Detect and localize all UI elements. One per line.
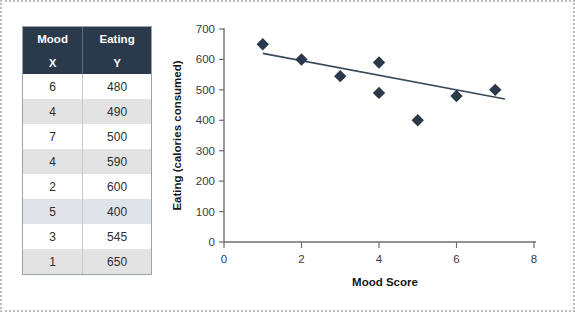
- x-tick-label: 2: [298, 253, 304, 265]
- data-point-marker: [450, 90, 462, 102]
- x-tick-label: 6: [453, 253, 459, 265]
- column-header-mood: Mood: [23, 27, 83, 51]
- cell-eating: 545: [83, 224, 151, 249]
- y-axis-title: Eating (calories consumed): [171, 60, 183, 210]
- x-tick-label: 8: [531, 253, 537, 265]
- cell-eating: 400: [83, 199, 151, 224]
- mood-eating-data-table: Mood Eating X Y 648044907500459026005400…: [23, 27, 151, 274]
- column-subheader-x: X: [23, 51, 83, 74]
- table-row: 6480: [23, 74, 151, 99]
- cell-mood: 3: [23, 224, 83, 249]
- y-axis-ticks: 0100200300400500600700: [196, 23, 224, 248]
- table-header: Mood Eating X Y: [23, 27, 151, 74]
- x-axis-ticks: 02468: [221, 242, 537, 265]
- data-point-marker: [295, 53, 307, 65]
- x-tick-label: 4: [376, 253, 383, 265]
- scatter-chart: 0100200300400500600700 02468 Mood Score …: [167, 10, 567, 306]
- table-row: 1650: [23, 249, 151, 274]
- table-body: 64804490750045902600540035451650: [23, 74, 151, 274]
- cell-mood: 5: [23, 199, 83, 224]
- table-subheader-row: X Y: [23, 51, 151, 74]
- table-row: 5400: [23, 199, 151, 224]
- y-tick-label: 100: [196, 206, 215, 218]
- cell-eating: 590: [83, 149, 151, 174]
- x-tick-label: 0: [221, 253, 227, 265]
- table-header-row: Mood Eating: [23, 27, 151, 51]
- data-point-marker: [412, 114, 424, 126]
- cell-eating: 490: [83, 99, 151, 124]
- cell-mood: 4: [23, 99, 83, 124]
- cell-eating: 480: [83, 74, 151, 99]
- chart-canvas: 0100200300400500600700 02468 Mood Score …: [167, 10, 567, 306]
- table-row: 7500: [23, 124, 151, 149]
- table-row: 4490: [23, 99, 151, 124]
- y-tick-label: 700: [196, 23, 215, 35]
- cell-mood: 6: [23, 74, 83, 99]
- y-tick-label: 500: [196, 84, 215, 96]
- cell-mood: 4: [23, 149, 83, 174]
- y-tick-label: 300: [196, 145, 215, 157]
- cell-mood: 1: [23, 249, 83, 274]
- cell-mood: 7: [23, 124, 83, 149]
- data-point-markers: [257, 38, 502, 126]
- y-tick-label: 0: [209, 236, 215, 248]
- cell-eating: 500: [83, 124, 151, 149]
- y-tick-label: 400: [196, 114, 215, 126]
- data-point-marker: [489, 84, 501, 96]
- column-subheader-y: Y: [83, 51, 151, 74]
- column-header-eating: Eating: [83, 27, 151, 51]
- data-point-marker: [334, 70, 346, 82]
- y-tick-label: 200: [196, 175, 215, 187]
- cell-eating: 650: [83, 249, 151, 274]
- table-row: 4590: [23, 149, 151, 174]
- y-tick-label: 600: [196, 53, 215, 65]
- x-axis-title: Mood Score: [352, 276, 418, 288]
- table-row: 2600: [23, 174, 151, 199]
- cell-mood: 2: [23, 174, 83, 199]
- data-point-marker: [373, 87, 385, 99]
- data-point-marker: [373, 56, 385, 68]
- data-point-marker: [257, 38, 269, 50]
- figure-container: Mood Eating X Y 648044907500459026005400…: [0, 0, 575, 312]
- cell-eating: 600: [83, 174, 151, 199]
- table-row: 3545: [23, 224, 151, 249]
